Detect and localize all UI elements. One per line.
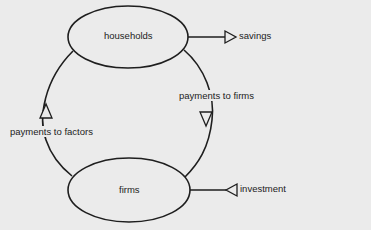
firms-label: firms — [118, 184, 141, 195]
payments-to-factors-label: payments to factors — [9, 126, 94, 137]
arrow-right-icon — [225, 31, 236, 43]
savings-label: savings — [238, 30, 272, 41]
arrow-up-icon — [40, 104, 52, 118]
arrow-left-icon — [226, 184, 237, 196]
circular-flow-diagram — [0, 0, 371, 230]
investment-label: investment — [239, 183, 287, 194]
households-label: households — [103, 30, 154, 41]
payments-to-firms-label: payments to firms — [178, 90, 255, 101]
arrow-down-icon — [200, 112, 212, 126]
